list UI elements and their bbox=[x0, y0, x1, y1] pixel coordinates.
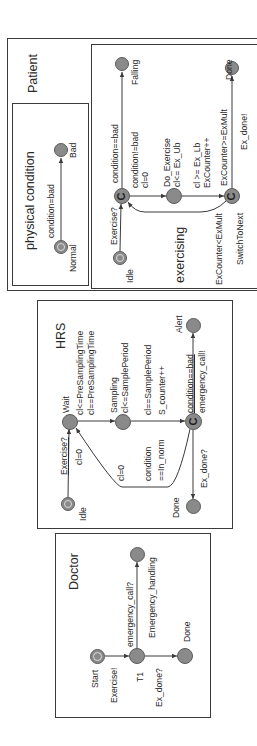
doctor-state-label-start: Start bbox=[91, 670, 100, 688]
hrs-invariant-wait: cl<=PreSamplingTime bbox=[76, 331, 85, 415]
patient-title: Patient bbox=[27, 54, 40, 93]
hrs-state-label-done: Done bbox=[172, 497, 181, 518]
hrs-edge-label-ex-done-recv: Ex_done? bbox=[200, 449, 209, 488]
hrs-state-label-sampling: Sampling bbox=[110, 377, 119, 413]
state-switch-to-next: C bbox=[224, 188, 240, 204]
hrs-edge-label-cl-eq-presampling: cl==PreSamplingTime bbox=[87, 331, 96, 415]
state-label-do-exercise: Do_Exercise bbox=[163, 138, 172, 187]
state-do-exercise bbox=[166, 188, 182, 204]
committed-glyph: C bbox=[188, 418, 199, 426]
physical-condition-title: physical condition bbox=[24, 151, 37, 250]
hrs-state-done bbox=[186, 499, 201, 514]
committed-glyph: C bbox=[116, 192, 127, 200]
doctor-edge-label-exercise-send: Exercise! bbox=[110, 668, 119, 703]
doctor-state-label-t1: T1 bbox=[136, 672, 145, 682]
doctor-edge-label-emergency-recv: emergency_call? bbox=[126, 582, 135, 647]
hrs-state-sampling bbox=[115, 414, 131, 430]
hrs-edge-label-s-counter-inc: S_counter++ bbox=[158, 366, 167, 415]
doctor-state-label-done: Done bbox=[183, 621, 192, 642]
hrs-state-idle bbox=[61, 497, 75, 511]
state-label-done: Done bbox=[225, 59, 234, 80]
hrs-edge-label-exercise-recv: Exercise? bbox=[60, 437, 69, 475]
doctor-state-start bbox=[90, 649, 105, 664]
edge-label-condition-eq-bad: condition==bad bbox=[111, 124, 120, 183]
edge-label-exercise-recv: Exercise? bbox=[110, 207, 119, 245]
doctor-state-label-emergency-handling: Emergency_handling bbox=[148, 557, 157, 638]
doctor-state-done bbox=[177, 648, 193, 664]
doctor-edge-label-ex-done-recv: Ex_done? bbox=[155, 668, 164, 707]
hrs-state-label-wait: Wait bbox=[62, 396, 71, 413]
hrs-invariant-sampling: cl<=SamplePeriod bbox=[121, 343, 130, 413]
hrs-edge-label-emergency-send: emergency_call! bbox=[198, 350, 207, 413]
state-label-falling: Falling bbox=[131, 60, 140, 85]
invariant-do-exercise: cl<= Ex_Ub bbox=[173, 143, 182, 187]
state-label-normal: Normal bbox=[69, 244, 78, 272]
hrs-state-label-alert: Alert bbox=[175, 315, 184, 333]
exercising-title: exercising bbox=[174, 227, 187, 283]
state-committed-choice: C bbox=[114, 188, 130, 204]
edge-label-cl-reset: cl=0 bbox=[141, 172, 150, 188]
doctor-state-t1 bbox=[129, 648, 145, 664]
state-label-switch-to-next: SwitchToNext bbox=[236, 213, 245, 265]
hrs-edge-label-cl-reset: cl=0 bbox=[75, 449, 84, 465]
hrs-edge-label-cl-eq-sampleperiod: cl==SamplePeriod bbox=[144, 345, 153, 415]
timed-automata-diagram: Patient physical condition Normal Bad co… bbox=[0, 0, 257, 746]
doctor-state-emergency-handling bbox=[130, 547, 145, 562]
hrs-edge-label-cl-reset-2: cl=0 bbox=[117, 465, 126, 481]
state-bad bbox=[54, 143, 68, 157]
state-normal bbox=[54, 240, 68, 254]
hrs-state-alert bbox=[186, 318, 201, 333]
state-label-idle: Idle bbox=[126, 269, 135, 283]
hrs-state-committed: C bbox=[185, 413, 202, 430]
edge-label-condition-bad: condition=bad bbox=[47, 184, 56, 238]
state-falling bbox=[115, 57, 129, 71]
hrs-edge-label-condition-bad: condition==bad bbox=[186, 354, 195, 413]
committed-glyph: C bbox=[226, 192, 237, 200]
edge-label-cl-ge-ex-lb: cl >= Ex_Lb bbox=[193, 143, 202, 188]
hrs-edge-label-in-norm: ==In_norm bbox=[157, 439, 166, 481]
state-label-bad: Bad bbox=[69, 143, 78, 158]
hrs-edge-label-condition: condition bbox=[144, 447, 153, 481]
edge-label-ex-done-send: Ex_done! bbox=[240, 114, 249, 150]
doctor-title: Doctor bbox=[68, 553, 81, 590]
edge-label-condition-neq-bad: condition!=bad bbox=[131, 132, 140, 188]
edge-label-excounter-inc: ExCounter++ bbox=[203, 137, 212, 188]
hrs-title: HRS bbox=[55, 323, 68, 349]
edge-label-excounter-ge-exmult: ExCounter>=ExMult bbox=[220, 109, 229, 186]
hrs-state-label-idle: Idle bbox=[79, 507, 88, 521]
edge-label-excounter-lt-exmult: ExCounter<ExMult bbox=[215, 213, 224, 285]
state-idle bbox=[113, 251, 127, 265]
hrs-state-wait bbox=[62, 414, 78, 430]
